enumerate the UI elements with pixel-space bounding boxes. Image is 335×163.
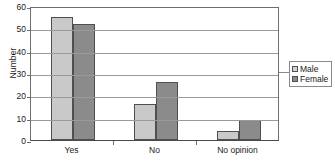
y-axis-tick-label: 30 (6, 70, 26, 79)
x-axis-group-separator (196, 141, 197, 145)
y-axis-tick-label: 40 (6, 47, 26, 56)
bar-female-yes (73, 24, 95, 140)
gridline (31, 30, 278, 31)
bar-male-yes (51, 17, 73, 140)
gridline (31, 75, 278, 76)
legend-item-female[interactable]: Female (292, 74, 328, 84)
legend-item-male[interactable]: Male (292, 64, 328, 74)
y-axis-tick-label: 10 (6, 114, 26, 123)
y-axis-tick-label: 50 (6, 25, 26, 34)
y-axis-tick-mark (27, 75, 31, 76)
y-axis-tick-label: 60 (6, 3, 26, 12)
bar-male-no (134, 104, 156, 140)
gridline (31, 53, 278, 54)
bar-female-no-opinion (239, 120, 261, 140)
y-axis-tick-label: 20 (6, 92, 26, 101)
y-axis-tick-mark (27, 120, 31, 121)
legend-swatch-female-icon (292, 76, 298, 82)
bar-chart-figure: Number 0102030405060 MaleFemale YesNoNo … (0, 0, 335, 163)
legend-label: Male (300, 65, 318, 74)
y-axis-tick-labels: 0102030405060 (6, 0, 26, 163)
bar-male-no-opinion (217, 131, 239, 140)
gridline (31, 120, 278, 121)
x-axis-label: No opinion (217, 145, 258, 155)
x-axis-label: Yes (65, 145, 79, 155)
y-axis-tick-mark (27, 30, 31, 31)
y-axis-tick-label: 0 (6, 137, 26, 146)
legend-swatch-male-icon (292, 66, 298, 72)
plot-area (30, 7, 279, 141)
bar-female-no (156, 82, 178, 140)
x-axis-label: No (149, 145, 160, 155)
chart-legend: MaleFemale (289, 61, 332, 87)
x-axis-group-separator (113, 141, 114, 145)
gridline (31, 97, 278, 98)
y-axis-tick-mark (27, 8, 31, 9)
y-axis-tick-mark (27, 97, 31, 98)
y-axis-tick-mark (27, 53, 31, 54)
y-axis-tick-mark (27, 142, 31, 143)
legend-leader-line (279, 72, 290, 73)
legend-label: Female (300, 75, 328, 84)
